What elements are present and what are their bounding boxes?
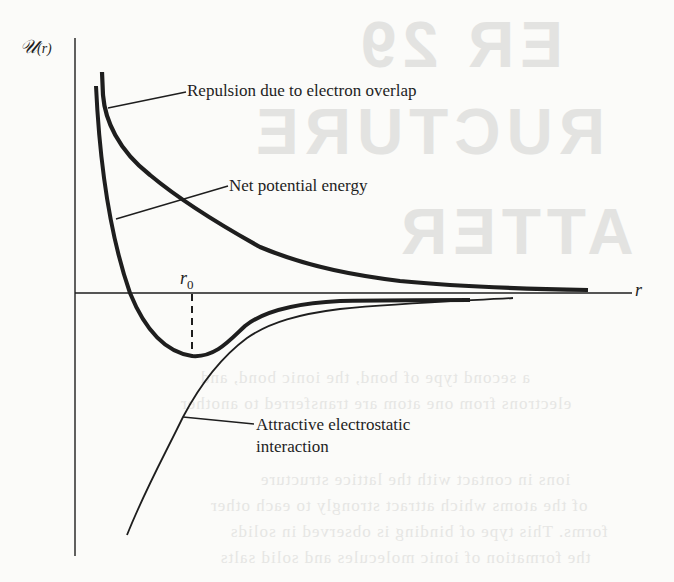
x-axis-label: r xyxy=(635,280,642,301)
attractive-leader-line xyxy=(183,417,254,424)
r0-label: r0 xyxy=(180,268,194,293)
y-axis-label: 𝒰(r) xyxy=(20,36,52,58)
y-axis-symbol: 𝒰 xyxy=(20,36,37,57)
r0-subscript: 0 xyxy=(187,277,194,292)
repulsion-leader-line xyxy=(108,92,186,108)
potential-energy-diagram: ER 29 RUCTURE ATTER a second type of bon… xyxy=(0,0,674,582)
attractive-label-line1: Attractive electrostatic xyxy=(256,414,410,436)
repulsion-label: Repulsion due to electron overlap xyxy=(187,80,416,102)
attractive-label-line2: interaction xyxy=(256,436,329,458)
net-potential-curve xyxy=(96,86,470,356)
net-potential-label: Net potential energy xyxy=(229,175,367,197)
r0-symbol: r xyxy=(180,268,187,288)
y-axis-argument: (r) xyxy=(37,41,52,56)
